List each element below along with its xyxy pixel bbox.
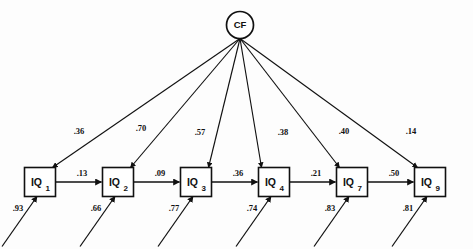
- node-subscript: 4: [280, 184, 285, 193]
- residual-path-labels: .93.66.77.74.83.81: [13, 203, 414, 213]
- node-subscript: 3: [202, 184, 207, 193]
- autoregressive-path-value: .36: [233, 168, 244, 178]
- residual-path-lines: [2, 197, 427, 247]
- observed-variable-node[interactable]: IQ2: [103, 168, 134, 197]
- factor-loading-arrow: [240, 39, 340, 168]
- observed-variable-node[interactable]: IQ4: [259, 168, 290, 197]
- factor-loading-arrow: [240, 39, 262, 168]
- factor-loading-value: .70: [136, 123, 147, 133]
- observed-variable-node[interactable]: IQ1: [25, 168, 56, 197]
- observed-variable-node[interactable]: IQ3: [181, 168, 212, 197]
- node-label: IQ: [187, 176, 198, 188]
- factor-loading-value: .36: [74, 126, 85, 136]
- node-label: IQ: [343, 176, 354, 188]
- node-subscript: 1: [46, 184, 51, 193]
- autoregressive-path-value: .13: [77, 168, 88, 178]
- node-subscript: 9: [436, 184, 441, 193]
- residual-path-value: .66: [91, 203, 102, 213]
- observed-variable-node[interactable]: IQ7: [337, 168, 368, 197]
- factor-loading-value: .57: [195, 127, 206, 137]
- residual-path-value: .83: [325, 203, 336, 213]
- observed-variable-node[interactable]: IQ9: [415, 168, 446, 197]
- latent-factor-node[interactable]: CF: [227, 12, 254, 39]
- autoregressive-path-value: .21: [311, 168, 322, 178]
- node-label: IQ: [109, 176, 120, 188]
- factor-loading-arrow: [240, 39, 418, 168]
- residual-path-value: .74: [247, 203, 258, 213]
- factor-label: CF: [234, 19, 247, 30]
- node-subscript: 2: [124, 184, 129, 193]
- factor-loading-value: .14: [406, 126, 417, 136]
- autoregressive-path-value: .09: [155, 168, 166, 178]
- residual-path-value: .77: [169, 203, 180, 213]
- diagram-svg: CF IQ1IQ2IQ3IQ4IQ7IQ9 .36.70.57.38.40.14…: [0, 0, 473, 249]
- node-subscript: 7: [358, 184, 363, 193]
- factor-loading-value: .40: [339, 126, 350, 136]
- node-label: IQ: [265, 176, 276, 188]
- path-diagram-canvas: CF IQ1IQ2IQ3IQ4IQ7IQ9 .36.70.57.38.40.14…: [0, 0, 473, 249]
- factor-loading-lines: [53, 39, 418, 168]
- autoregressive-path-value: .50: [389, 168, 400, 178]
- node-label: IQ: [31, 176, 42, 188]
- residual-path-value: .93: [13, 203, 24, 213]
- factor-loading-value: .38: [278, 127, 289, 137]
- residual-path-value: .81: [403, 203, 414, 213]
- node-label: IQ: [421, 176, 432, 188]
